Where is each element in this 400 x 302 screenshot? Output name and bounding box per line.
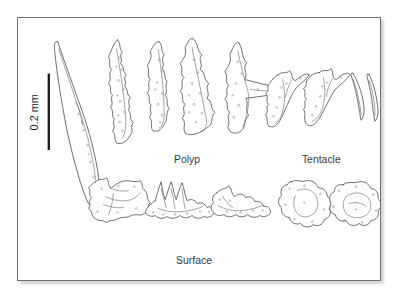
sclerite-tentacle-warty-rod-1 (266, 71, 310, 127)
figure-root: 0.2 mm (0, 0, 400, 302)
sclerite-warty-spindle-1 (109, 40, 134, 144)
group-label-polyp: Polyp (174, 154, 200, 165)
tentacle-group: Tentacle (266, 69, 378, 165)
sclerite-tentacle-smooth-rod-2 (367, 74, 378, 122)
scale-bar-group: 0.2 mm (28, 74, 49, 150)
scale-bar-label: 0.2 mm (28, 94, 40, 130)
surface-group: Surface (89, 178, 380, 266)
sclerite-surface-capstan-2 (330, 182, 380, 226)
sclerite-warty-spindle-3 (180, 38, 215, 134)
group-label-tentacle: Tentacle (302, 154, 341, 165)
sclerite-surface-cross-form (89, 178, 151, 223)
polyp-group: Polyp (54, 38, 283, 207)
sclerite-tentacle-smooth-rod-1 (351, 73, 364, 121)
sclerite-warty-spindle-2 (147, 41, 169, 131)
sclerite-surface-lobed-form (211, 186, 270, 218)
plate-frame: 0.2 mm (17, 17, 381, 281)
sclerite-plate: 0.2 mm (18, 18, 380, 280)
sclerite-surface-capstan-1 (279, 181, 331, 227)
sclerite-surface-crown-form (145, 182, 215, 219)
group-label-surface: Surface (176, 255, 212, 266)
sclerite-tentacle-warty-rod-2 (303, 69, 350, 126)
